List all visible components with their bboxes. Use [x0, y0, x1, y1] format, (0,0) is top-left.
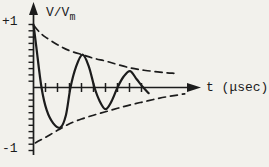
damped-oscillation-figure: +1 -1 V/Vm t (μsec) [0, 0, 269, 167]
y-tick-label-minus1: -1 [2, 141, 18, 156]
lower-envelope-curve [35, 94, 184, 143]
y-axis-label-subscript: m [69, 12, 75, 23]
y-axis-label-main: V/V [46, 5, 69, 20]
x-axis-label: t (μsec) [206, 80, 268, 95]
y-axis-arrowhead [29, 2, 38, 15]
y-axis-label: V/Vm [46, 5, 75, 21]
damped-oscillation-curve [34, 25, 149, 128]
upper-envelope-curve [34, 26, 174, 74]
x-axis-arrowhead [187, 83, 201, 92]
y-tick-label-plus1: +1 [2, 14, 18, 29]
